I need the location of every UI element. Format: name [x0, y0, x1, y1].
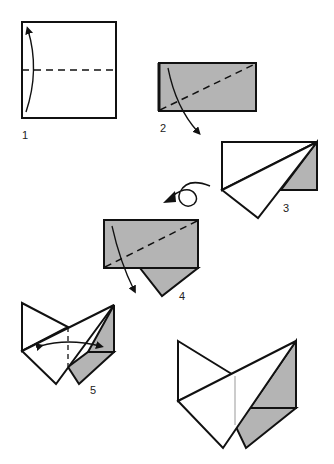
step-5: 5	[22, 303, 114, 396]
step-4: 4	[104, 220, 198, 302]
step-2: 2	[159, 63, 256, 134]
step-label-1: 1	[22, 129, 28, 141]
step-label-5: 5	[90, 384, 96, 396]
step-3: 3	[222, 142, 317, 218]
step-1: 1	[22, 22, 116, 141]
turn-over-arrow-icon	[163, 183, 210, 206]
origami-diagram: 1 2 3 4 5	[0, 0, 334, 464]
step-label-4: 4	[179, 290, 185, 302]
step-label-2: 2	[160, 122, 166, 134]
step-label-3: 3	[283, 202, 289, 214]
final-model	[178, 341, 296, 448]
